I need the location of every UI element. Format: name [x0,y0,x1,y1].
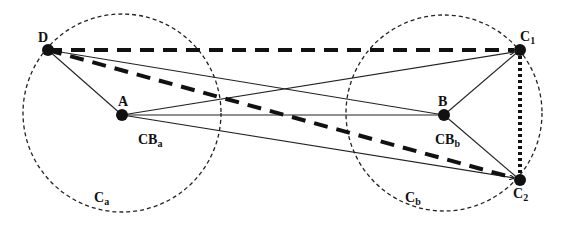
diagram-canvas: D A B C1 C2 CBa CBb Ca Cb [0,0,563,238]
label-ca: Ca [94,190,109,207]
label-cb: Cb [405,190,421,207]
network-diagram: D A B C1 C2 CBa CBb Ca Cb [0,0,563,238]
label-b: B [438,94,447,109]
label-c2: C2 [513,186,528,203]
label-cbb: CBb [435,132,460,149]
node-c2 [514,174,526,186]
node-b [438,109,450,121]
label-a: A [118,94,129,109]
label-c1: C1 [520,29,535,46]
label-cba: CBa [138,132,162,149]
node-d [42,44,54,56]
label-d: D [38,30,48,45]
node-a [116,109,128,121]
node-c1 [514,44,526,56]
